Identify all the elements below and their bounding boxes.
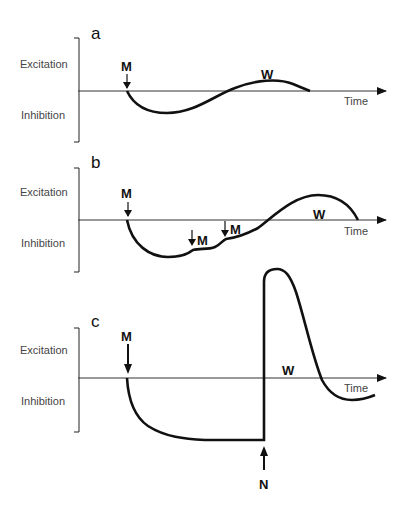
arrow-down-icon [221,230,229,237]
arrow-down-icon [123,82,131,89]
arrow-down-icon [124,364,132,374]
time-label: Time [344,225,368,237]
excitation-label: Excitation [20,344,68,356]
panel-c-label: c [91,312,100,331]
w-label: W [261,67,274,82]
m-marker-label: M [197,233,208,248]
m-marker-label: M [230,222,241,237]
y-bracket [74,328,79,432]
inhibition-label: Inhibition [21,109,65,121]
m-marker-label: M [121,186,132,201]
inhibition-label: Inhibition [21,395,65,407]
panel-a-label: a [91,24,101,43]
m-marker-label: M [121,329,132,344]
y-bracket [74,38,79,142]
response-curve [127,269,375,440]
n-marker-label: N [259,477,268,492]
w-label: W [282,363,295,378]
inhibition-label: Inhibition [21,237,65,249]
diagram-canvas: a Excitation Inhibition Time M W b Excit… [0,0,406,517]
panel-b-label: b [91,153,100,172]
panel-c: c Excitation Inhibition Time M W N [20,269,386,492]
response-curve [127,195,358,257]
w-label: W [313,207,326,222]
m-marker-label: M [121,59,132,74]
excitation-label: Excitation [20,186,68,198]
arrow-down-icon [188,239,196,246]
panel-b: b Excitation Inhibition Time M M M W [20,153,386,272]
response-curve [127,81,310,113]
panel-a: a Excitation Inhibition Time M W [20,24,386,142]
arrow-up-icon [260,446,268,456]
time-label: Time [344,382,368,394]
arrow-down-icon [124,210,132,217]
excitation-label: Excitation [20,58,68,70]
time-label: Time [344,95,368,107]
